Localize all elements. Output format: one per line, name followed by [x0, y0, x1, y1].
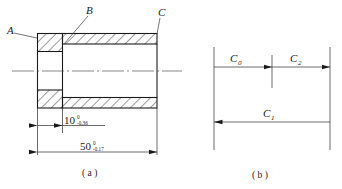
dimension-10-lower-tol: -0.36: [77, 120, 88, 126]
dimension-overall-length: 50 0 -0.17: [38, 140, 158, 153]
figure-b-dimension-chain: C 0 C 2 C 1 ( b ): [214, 47, 330, 181]
chain-label-c0-base: C: [230, 52, 238, 64]
part-label-b: B: [86, 4, 93, 16]
hatched-region-lower-right: [63, 98, 158, 109]
dimension-50-nominal: 50: [80, 140, 92, 152]
chain-label-c0-sub: 0: [238, 59, 242, 67]
caption-figure-a: ( a ): [82, 168, 97, 179]
chain-link-c0: C 0: [214, 52, 272, 67]
hatched-region-upper-left: [38, 34, 63, 52]
chain-label-c2-base: C: [290, 52, 298, 64]
chain-link-c2: C 2: [272, 52, 330, 67]
figure-a-section-view: A B C 10 0 -0.36 50 0 -0.17: [6, 4, 182, 179]
chain-label-c1-base: C: [263, 107, 271, 119]
part-label-a: A: [6, 24, 14, 36]
hatched-region-lower-left: [38, 90, 63, 108]
drawing-canvas: A B C 10 0 -0.36 50 0 -0.17: [0, 0, 342, 189]
caption-figure-b: ( b ): [252, 170, 268, 181]
dimension-10-nominal: 10: [64, 114, 76, 126]
dimension-step-length: 10 0 -0.36: [38, 114, 106, 127]
dimension-50-lower-tol: -0.17: [93, 146, 104, 152]
chain-label-c2-sub: 2: [298, 59, 302, 67]
chain-link-c1: C 1: [214, 107, 330, 122]
chain-label-c1-sub: 1: [271, 114, 275, 122]
technical-drawing-figure: A B C 10 0 -0.36 50 0 -0.17: [0, 0, 342, 189]
hatched-region-upper-right: [63, 34, 158, 45]
part-label-c: C: [158, 6, 166, 18]
